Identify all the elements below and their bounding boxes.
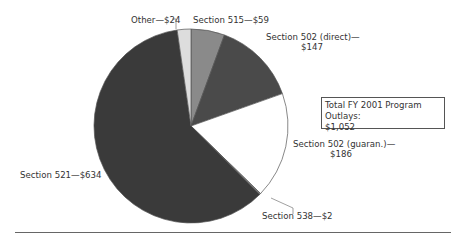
total-outlays-value: $1,052 — [325, 122, 441, 133]
total-outlays-box: Total FY 2001 Program Outlays: $1,052 — [321, 97, 445, 129]
label-section-521: Section 521—$634 — [20, 170, 102, 180]
total-outlays-label: Total FY 2001 Program Outlays: — [325, 100, 441, 122]
label-section-502-guaranteed-name: Section 502 (guaran.)— — [293, 139, 389, 149]
label-section-502-direct-value: $147 — [266, 42, 358, 52]
label-section-502-guaranteed: Section 502 (guaran.)— $186 — [293, 139, 389, 159]
label-section-502-guaranteed-value: $186 — [293, 149, 389, 159]
bottom-divider — [15, 232, 451, 233]
label-section-538: Section 538—$2 — [262, 211, 333, 221]
label-other: Other—$24 — [131, 15, 180, 25]
label-section-502-direct: Section 502 (direct)— $147 — [266, 32, 358, 52]
label-section-515: Section 515—$59 — [193, 15, 269, 25]
label-section-502-direct-name: Section 502 (direct)— — [266, 32, 358, 42]
